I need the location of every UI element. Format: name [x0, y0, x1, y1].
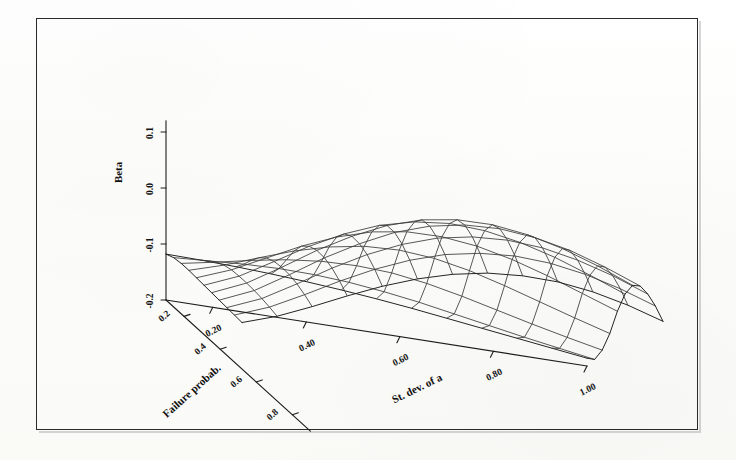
z-tick-label: 0.1 — [145, 127, 155, 139]
x-tick-mark — [584, 366, 587, 372]
y-tick-label: 0.8 — [265, 407, 281, 423]
mesh-line — [174, 258, 595, 360]
x-tick-mark — [303, 322, 306, 328]
z-tick-label: -0.1 — [145, 237, 155, 252]
z-axis-title: Beta — [112, 161, 124, 183]
x-tick-mark — [210, 307, 213, 313]
x-tick-label: 0.40 — [297, 337, 317, 353]
surface-plot-canvas: 0.10.0-0.1-0.2Beta0.200.400.600.801.00St… — [0, 0, 736, 460]
mesh-line — [447, 225, 523, 319]
x-axis-line — [166, 300, 587, 366]
axis-labels-group: 0.10.0-0.1-0.2Beta0.200.400.600.801.00St… — [112, 127, 598, 422]
x-tick-label: 0.80 — [484, 366, 504, 382]
x-tick-mark — [490, 351, 493, 357]
x-tick-label: 0.20 — [204, 322, 224, 338]
mesh-line — [482, 235, 558, 329]
y-tick-mark — [292, 413, 298, 415]
mesh-line — [219, 225, 640, 300]
y-tick-label: 0.6 — [228, 374, 244, 390]
x-tick-mark — [397, 337, 400, 343]
y-tick-mark — [256, 380, 262, 382]
x-tick-label: 0.60 — [391, 352, 411, 368]
y-tick-label: 0.4 — [192, 341, 208, 357]
x-axis-title: St. dev. of a — [390, 371, 444, 406]
y-tick-mark — [184, 314, 190, 316]
x-tick-label: 1.00 — [578, 381, 598, 397]
y-axis-title: Failure probab. — [160, 361, 223, 419]
z-tick-label: -0.2 — [145, 293, 155, 308]
mesh-line — [166, 254, 242, 322]
figure-root: 0.10.0-0.1-0.2Beta0.200.400.600.801.00St… — [0, 0, 736, 460]
z-tick-label: 0.0 — [145, 183, 155, 195]
y-tick-label: 0.2 — [156, 308, 172, 324]
y-tick-mark — [220, 347, 226, 349]
